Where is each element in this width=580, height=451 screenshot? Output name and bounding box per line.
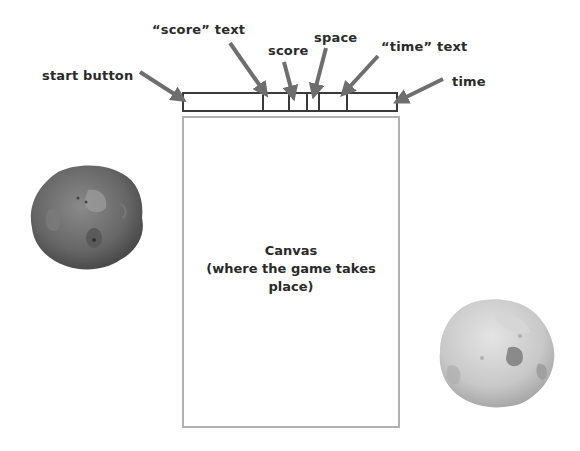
light-asteroid-icon (434, 296, 559, 411)
label-time: time (452, 74, 486, 89)
arrow-start-button (140, 72, 182, 99)
top-control-bar (182, 92, 398, 112)
arrow-space (314, 48, 326, 94)
canvas-caption: Canvas (where the game takes place) (184, 242, 398, 296)
label-space: space (314, 30, 357, 45)
arrow-time-text (344, 56, 378, 93)
arrow-score (284, 62, 293, 96)
score-text-cell (264, 94, 290, 110)
space-cell (308, 94, 320, 110)
canvas-title: Canvas (184, 242, 398, 260)
start-button[interactable] (184, 94, 264, 110)
label-score-text: “score” text (152, 22, 245, 37)
time-value-cell (348, 94, 396, 110)
arrow-time (398, 79, 443, 101)
time-text-cell (320, 94, 348, 110)
arrow-score-text (230, 43, 265, 93)
label-start-button: start button (42, 68, 133, 83)
canvas-subtitle: (where the game takes place) (184, 260, 398, 296)
dark-asteroid-icon (28, 160, 148, 275)
label-score: score (268, 43, 309, 58)
label-time-text: “time” text (381, 39, 467, 54)
game-canvas[interactable]: Canvas (where the game takes place) (182, 116, 400, 428)
score-value-cell (290, 94, 308, 110)
